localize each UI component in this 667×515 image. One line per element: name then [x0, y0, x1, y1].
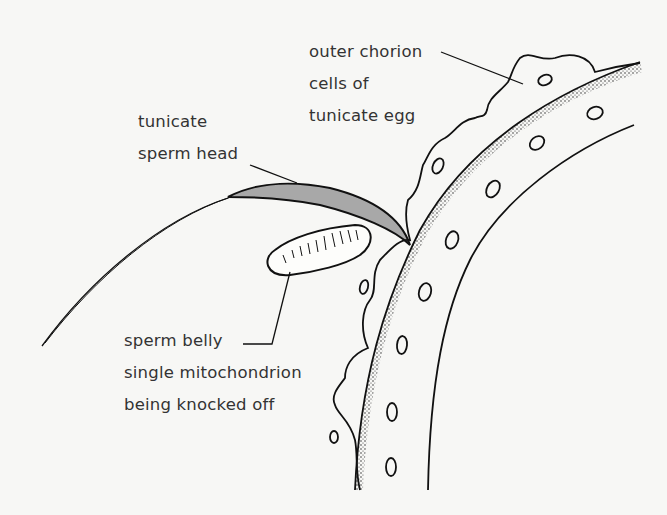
label-sperm-head: tunicate sperm head	[138, 106, 238, 170]
label-line: tunicate egg	[309, 100, 422, 132]
label-line: outer chorion	[309, 36, 422, 68]
label-sperm-belly: sperm belly single mitochondrion being k…	[124, 325, 302, 421]
label-line: being knocked off	[124, 389, 302, 421]
label-line: tunicate	[138, 106, 238, 138]
label-line: cells of	[309, 68, 422, 100]
label-line: sperm belly	[124, 325, 302, 357]
test-cells	[330, 73, 605, 476]
sperm-belly-mitochondrion	[267, 225, 370, 275]
label-outer-chorion: outer chorion cells of tunicate egg	[309, 36, 422, 132]
label-line: sperm head	[138, 138, 238, 170]
label-line: single mitochondrion	[124, 357, 302, 389]
sperm-tail	[42, 197, 231, 346]
